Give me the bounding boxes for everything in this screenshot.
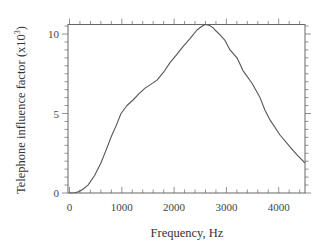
x-tick-label: 4000 <box>268 201 291 213</box>
x-tick-label: 0 <box>67 201 73 213</box>
y-axis-title-main: Telephone influence factor (x10 <box>14 34 28 194</box>
y-axis-title-suffix: ) <box>14 26 28 30</box>
x-axis-title: Frequency, Hz <box>151 226 224 240</box>
y-tick-label: 0 <box>54 187 60 199</box>
y-tick-labels: 0510 <box>48 28 60 199</box>
line-chart: 01000200030004000 0510 Frequency, Hz Tel… <box>0 0 330 251</box>
x-tick-labels: 01000200030004000 <box>67 201 290 213</box>
y-axis-title: Telephone influence factor (x103) <box>13 26 28 194</box>
minor-ticks <box>65 21 309 193</box>
x-tick-label: 3000 <box>215 201 238 213</box>
plot-frame <box>68 25 305 194</box>
x-tick-label: 2000 <box>163 201 186 213</box>
series-line <box>70 25 305 194</box>
y-tick-label: 10 <box>48 28 60 40</box>
x-tick-label: 1000 <box>111 201 134 213</box>
y-tick-label: 5 <box>54 108 60 120</box>
